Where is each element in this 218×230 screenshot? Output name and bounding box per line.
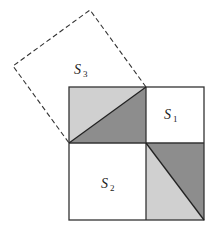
pythagorean-diagram: S 3 S 1 S 2 [0,0,218,230]
label-s3-sub: 3 [83,69,88,79]
label-s2-base: S [101,176,108,191]
label-s2: S 2 [101,176,115,193]
label-s1-base: S [164,107,171,122]
label-s1: S 1 [164,107,178,124]
label-s3-base: S [74,62,81,77]
label-s2-sub: 2 [110,183,115,193]
diagram-canvas: S 3 S 1 S 2 [0,0,218,230]
label-s3: S 3 [74,62,88,79]
label-s1-sub: 1 [173,114,178,124]
